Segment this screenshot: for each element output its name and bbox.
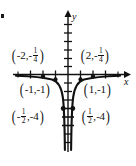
close-paren: ) [39, 47, 43, 64]
fraction-one-half: 1 2 [21, 108, 27, 124]
x-value: -1 [25, 84, 34, 95]
fraction-one-fourth: 1 4 [33, 47, 39, 63]
denominator: 2 [87, 116, 93, 125]
x-value: -2 [17, 50, 26, 61]
point-neg1 [53, 77, 57, 81]
x-axis-label: x [124, 76, 128, 87]
point-label-lower-left: ( - 1 2 , -4 ) [11, 108, 44, 125]
y-value: -1 [37, 84, 46, 95]
point-label-mid-right: ( 1 , -1 ) [83, 81, 112, 98]
denominator: 4 [33, 55, 39, 64]
open-paren: ( [12, 108, 16, 125]
open-paren: ( [81, 47, 85, 64]
open-paren: ( [82, 108, 86, 125]
point-label-lower-right: ( 1 2 , -4 ) [81, 108, 111, 125]
y-value: -1 [97, 84, 106, 95]
close-paren: ) [106, 108, 110, 125]
point-neg2 [41, 74, 45, 78]
point-label-upper-right: ( 2 , - 1 4 ) [80, 47, 110, 64]
numerator: 1 [33, 47, 39, 55]
point-pos-half [70, 106, 75, 111]
numerator: 1 [98, 47, 104, 55]
denominator: 2 [21, 116, 27, 125]
numerator: 1 [87, 108, 93, 116]
close-paren: ) [39, 108, 43, 125]
y-value: -4 [30, 111, 39, 122]
point-label-mid-left: ( -1 , -1 ) [19, 81, 51, 98]
close-paren: ) [107, 81, 111, 98]
point-pos1 [78, 77, 82, 81]
point-pos2 [91, 74, 95, 78]
figure-canvas: y x ( -2 , - 1 4 ) ( 2 , - 1 4 ) ( -1 , … [0, 0, 136, 166]
y-axis-label: y [72, 11, 76, 22]
fraction-one-fourth: 1 4 [98, 47, 104, 63]
point-neg-half [61, 106, 66, 111]
open-paren: ( [12, 47, 16, 64]
fraction-one-half: 1 2 [87, 108, 93, 124]
denominator: 4 [98, 55, 104, 64]
open-paren: ( [84, 81, 88, 98]
y-value: -4 [96, 111, 105, 122]
numerator: 1 [21, 108, 27, 116]
close-paren: ) [105, 47, 109, 64]
open-paren: ( [20, 81, 24, 98]
point-label-upper-left: ( -2 , - 1 4 ) [11, 47, 44, 64]
close-paren: ) [46, 81, 50, 98]
